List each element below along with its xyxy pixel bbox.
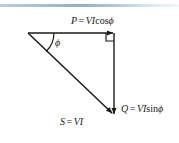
label-reactive-power-magnitude: VI (137, 103, 146, 114)
label-real-power-angle: ϕ (109, 15, 114, 26)
label-reactive-power-trig: sin (146, 103, 158, 114)
label-real-power-trig: cos (95, 15, 108, 26)
apparent-power-vector-line (28, 33, 112, 113)
label-reactive-power: Q=VIsinϕ (121, 104, 163, 114)
right-angle-marker (106, 33, 114, 41)
label-reactive-power-angle: ϕ (158, 103, 163, 114)
label-reactive-power-equals: = (128, 103, 137, 114)
label-apparent-power-equals: = (65, 116, 74, 127)
phase-angle-arc (46, 33, 54, 52)
figure-canvas: P=VIcosϕ Q=VIsinϕ S=VI ϕ (0, 0, 179, 143)
label-apparent-power: S=VI (60, 117, 83, 127)
label-real-power: P=VIcosϕ (71, 16, 114, 26)
label-real-power-magnitude: VI (86, 15, 95, 26)
label-apparent-power-magnitude: VI (74, 116, 83, 127)
label-real-power-equals: = (77, 15, 86, 26)
label-phase-angle: ϕ (55, 38, 60, 48)
